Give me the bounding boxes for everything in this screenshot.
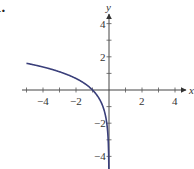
y-tick-label: −4 (94, 150, 106, 162)
x-tick-label: 4 (172, 95, 178, 107)
x-axis-label: x (188, 84, 194, 96)
x-tick-label: 2 (139, 95, 145, 107)
function-graph: −4−224 42−2−4 x y (0, 0, 194, 169)
y-tick-label: −2 (94, 117, 106, 129)
y-tick-label: 2 (100, 51, 106, 63)
y-axis-label: y (105, 1, 111, 13)
x-tick-label: −2 (70, 95, 82, 107)
x-tick-label: −4 (37, 95, 49, 107)
y-tick-label: 4 (100, 18, 106, 30)
x-tick-labels: −4−224 (37, 95, 178, 107)
